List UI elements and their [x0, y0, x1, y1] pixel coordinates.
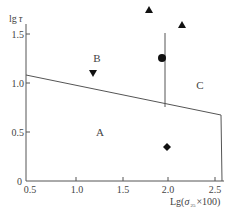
boundary-a-upper [26, 75, 222, 181]
region-label-a: A [96, 126, 104, 138]
region-label-b: B [93, 52, 100, 64]
y-tick-label: 1.0 [12, 78, 25, 89]
y-ticks [26, 34, 30, 132]
y-tick-label: 0.5 [12, 127, 25, 138]
x-tick-label: 0.5 [24, 184, 37, 195]
y-axis-label: lgτ [9, 13, 23, 24]
circle-marker [158, 54, 166, 62]
y-tick-label: 0 [17, 176, 22, 187]
triangle-up-marker [178, 21, 186, 28]
triangle-down-marker [89, 70, 97, 77]
x-tick-label: 1.5 [117, 184, 130, 195]
x-tick-label: 2.5 [209, 184, 222, 195]
diamond-marker [163, 143, 171, 151]
triangle-up-marker [145, 6, 153, 13]
x-tick-label: 2.0 [162, 184, 175, 195]
x-ticks [76, 177, 215, 181]
x-axis-label: Lg(σ25×100) [170, 196, 220, 207]
phase-diagram-chart: 1.5 1.0 0.5 0 0.5 1.0 1.5 2.0 2.5 lgτ Lg… [0, 0, 241, 207]
x-tick-label: 1.0 [71, 184, 84, 195]
region-label-c: C [196, 79, 203, 91]
y-tick-label: 1.5 [12, 29, 25, 40]
